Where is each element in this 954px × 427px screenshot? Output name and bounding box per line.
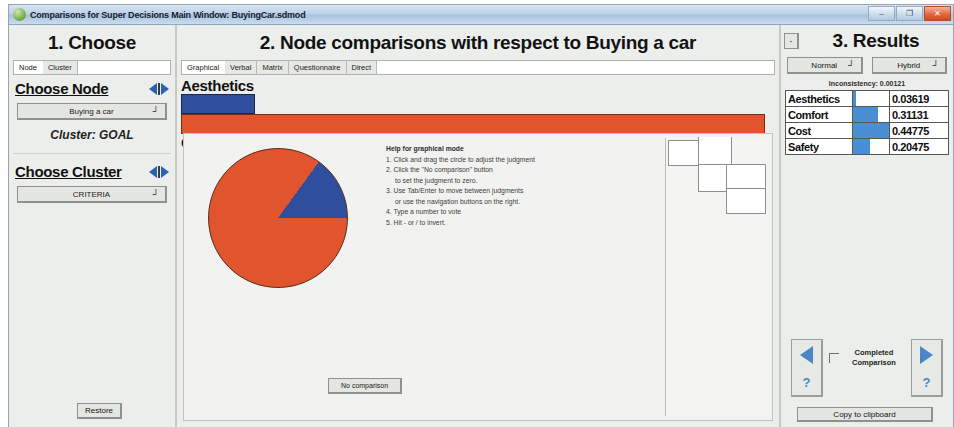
help-text-block: Help for graphical mode 1. Click and dra… <box>386 144 535 228</box>
result-minibar <box>853 139 869 154</box>
cluster-nav-arrows[interactable] <box>149 166 169 178</box>
current-cluster-label: Cluster: GOAL <box>9 128 175 142</box>
judgment-navigation: ? Completed Comparison ? <box>785 339 949 399</box>
result-bar-cell <box>853 91 890 107</box>
close-button[interactable]: ✕ <box>924 6 951 21</box>
result-name: Safety <box>786 139 853 155</box>
chevron-down-icon: ┘ <box>153 189 159 199</box>
results-panel-title: 3. Results <box>799 30 953 52</box>
results-panel: · 3. Results Normal ┘ Hybrid ┘ Inconsist… <box>781 25 953 427</box>
result-value: 0.31131 <box>889 107 948 123</box>
scale-ladder-widget[interactable] <box>665 138 768 416</box>
result-minibar <box>853 123 889 138</box>
normal-mode-value: Normal <box>811 61 837 70</box>
checkbox-icon[interactable] <box>829 353 839 363</box>
result-value: 0.44775 <box>889 123 948 139</box>
help-title: Help for graphical mode <box>386 144 535 155</box>
result-bar-cell <box>853 139 890 155</box>
ladder-step-4 <box>726 164 766 190</box>
minimize-button[interactable]: – <box>868 6 895 21</box>
prev-judgment-arrow-icon[interactable] <box>800 346 813 364</box>
left-divider <box>13 153 171 154</box>
result-name: Cost <box>786 123 853 139</box>
tab-cluster[interactable]: Cluster <box>43 61 78 74</box>
cluster-select[interactable]: CRITERIA ┘ <box>17 186 167 203</box>
help-line-3: to set the judgment to zero. <box>386 176 535 187</box>
tab-node[interactable]: Node <box>14 61 43 74</box>
copy-to-clipboard-button[interactable]: Copy to clipboard <box>797 407 933 422</box>
table-row[interactable]: Aesthetics 0.03619 <box>786 91 949 107</box>
graphical-judgment-canvas: Help for graphical mode 1. Click and dra… <box>183 133 773 421</box>
cluster-next-arrow-icon[interactable] <box>161 166 169 178</box>
help-line-5: or use the navigation buttons on the rig… <box>386 197 535 208</box>
cluster-prev-arrow-icon[interactable] <box>149 166 157 178</box>
next-judgment-arrow-icon[interactable] <box>920 346 933 364</box>
node-select[interactable]: Buying a car ┘ <box>17 103 167 120</box>
completed-comparison-checkbox[interactable]: Completed Comparison <box>829 348 905 367</box>
prev-judgment-group: ? <box>791 339 823 397</box>
window-controls: – ❐ ✕ <box>868 6 951 21</box>
app-window: Comparisons for Super Decisions Main Win… <box>8 4 954 427</box>
result-minibar <box>853 91 856 106</box>
result-name: Comfort <box>786 107 853 123</box>
result-bar-cell <box>853 123 890 139</box>
hybrid-mode-select[interactable]: Hybrid ┘ <box>872 57 948 74</box>
tab-direct[interactable]: Direct <box>347 61 378 74</box>
inconsistency-value: Inconsistency: 0.00121 <box>781 80 953 87</box>
window-title: Comparisons for Super Decisions Main Win… <box>30 10 305 20</box>
node-select-value: Buying a car <box>69 107 113 116</box>
choose-tabstrip: Node Cluster <box>13 60 171 75</box>
result-value: 0.20475 <box>889 139 948 155</box>
result-bar-cell <box>853 107 890 123</box>
choose-cluster-label: Choose Cluster <box>15 163 122 180</box>
tab-questionnaire[interactable]: Questionnaire <box>289 61 347 74</box>
node-next-arrow-icon[interactable] <box>161 83 169 95</box>
chevron-down-icon: ┘ <box>848 60 854 70</box>
result-minibar <box>853 107 878 122</box>
chevron-down-icon: ┘ <box>153 106 159 116</box>
app-logo-icon <box>13 8 26 21</box>
help-line-4: 3. Use Tab/Enter to move between judgmen… <box>386 186 535 197</box>
judgment-pie-chart[interactable] <box>208 148 348 288</box>
node-prev-arrow-icon[interactable] <box>149 83 157 95</box>
help-line-2: 2. Click the "No comparison" button <box>386 165 535 176</box>
restore-button[interactable]: Restore <box>77 403 122 419</box>
choose-panel: 1. Choose Node Cluster Choose Node Buyin… <box>9 25 177 427</box>
ladder-step-2 <box>698 137 732 167</box>
hybrid-mode-value: Hybrid <box>897 61 920 70</box>
normal-mode-select[interactable]: Normal ┘ <box>787 57 863 74</box>
cluster-select-value: CRITERIA <box>73 190 110 199</box>
bar-aesthetics[interactable] <box>181 94 255 114</box>
maximize-button[interactable]: ❐ <box>896 6 923 21</box>
tab-verbal[interactable]: Verbal <box>225 61 257 74</box>
tab-matrix[interactable]: Matrix <box>257 61 288 74</box>
comparison-mode-tabstrip: Graphical Verbal Matrix Questionnaire Di… <box>181 60 775 75</box>
title-bar: Comparisons for Super Decisions Main Win… <box>9 5 953 25</box>
choose-cluster-row: Choose Cluster <box>15 163 169 180</box>
choose-panel-title: 1. Choose <box>9 25 175 54</box>
result-name: Aesthetics <box>786 91 853 107</box>
prev-help-icon[interactable]: ? <box>803 376 811 389</box>
help-line-1: 1. Click and drag the circle to adjust t… <box>386 155 535 166</box>
help-line-6: 4. Type a number to vote <box>386 207 535 218</box>
table-row[interactable]: Comfort 0.31131 <box>786 107 949 123</box>
comparisons-panel-title: 2. Node comparisons with respect to Buyi… <box>177 25 779 54</box>
window-body: 1. Choose Node Cluster Choose Node Buyin… <box>9 25 953 427</box>
result-value: 0.03619 <box>889 91 948 107</box>
cluster-arrow-divider <box>158 166 160 178</box>
choose-node-row: Choose Node <box>15 80 169 97</box>
node-arrow-divider <box>158 83 160 95</box>
next-judgment-group: ? <box>911 339 943 397</box>
bar-label-top: Aesthetics <box>181 77 775 94</box>
next-help-icon[interactable]: ? <box>923 376 931 389</box>
panel-collapse-button[interactable]: · <box>784 33 799 49</box>
tab-graphical[interactable]: Graphical <box>182 61 225 74</box>
completed-comparison-label: Completed Comparison <box>843 348 905 367</box>
no-comparison-button[interactable]: No comparison <box>328 378 402 394</box>
chevron-down-icon: ┘ <box>933 60 939 70</box>
bar-cost[interactable] <box>181 114 765 134</box>
node-nav-arrows[interactable] <box>149 83 169 95</box>
results-header: · 3. Results <box>781 25 953 52</box>
table-row[interactable]: Safety 0.20475 <box>786 139 949 155</box>
table-row[interactable]: Cost 0.44775 <box>786 123 949 139</box>
